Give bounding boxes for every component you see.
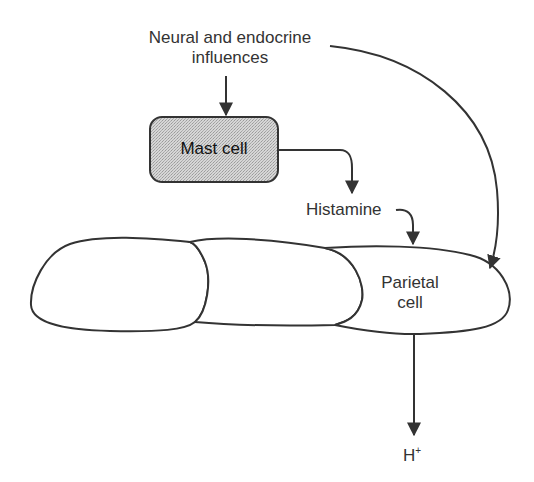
neural-endocrine-label: Neural and endocrine influences (120, 28, 340, 68)
histamine-label: Histamine (306, 200, 382, 220)
neural-endocrine-line2: influences (120, 48, 340, 68)
h-plus-superscript: + (415, 445, 421, 456)
h-plus-label: H+ (403, 446, 421, 466)
arrow-histamine-to-parietal (396, 210, 413, 244)
parietal-cell-label: Parietal cell (370, 273, 450, 313)
parietal-cell-line1: Parietal (370, 273, 450, 293)
neural-endocrine-line1: Neural and endocrine (120, 28, 340, 48)
parietal-cell-line2: cell (370, 293, 450, 313)
arrow-neural-to-parietal (330, 46, 498, 268)
diagram-graphics (0, 0, 534, 482)
diagram-canvas: Neural and endocrine influences Mast cel… (0, 0, 534, 482)
h-plus-base: H (403, 446, 415, 465)
arrow-mast-to-histamine (279, 150, 352, 193)
mast-cell-label: Mast cell (150, 139, 278, 159)
left-cell (31, 238, 208, 332)
